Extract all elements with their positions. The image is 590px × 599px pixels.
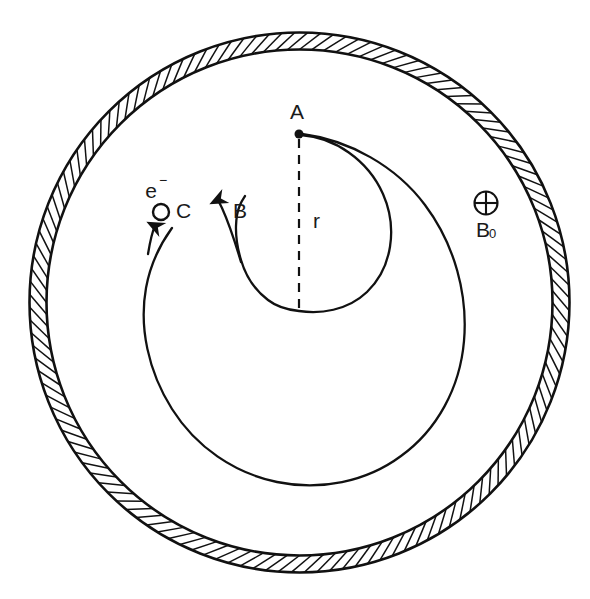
hatch-line (169, 533, 195, 539)
point-a-dot (295, 130, 304, 139)
electron-arrival-arrow (148, 226, 155, 254)
hatch-line (30, 307, 48, 326)
hatch-line (52, 195, 60, 220)
hatch-line (92, 129, 93, 156)
hatch-line (136, 515, 162, 517)
hatch-line (530, 408, 536, 434)
hatch-line (291, 555, 311, 572)
hatch-line (107, 492, 134, 494)
hatch-line (446, 95, 473, 96)
hatch-line (84, 139, 86, 165)
hatch-line (512, 439, 514, 465)
hatch-line (275, 33, 294, 51)
hatch-line (300, 33, 321, 49)
hatch-line (465, 111, 492, 113)
label-uniform-field-subscript: 0 (489, 226, 496, 241)
hatch-line (405, 66, 431, 72)
hatch-line (371, 50, 396, 60)
label-electron: e (145, 179, 157, 202)
hatch-line (77, 150, 80, 176)
hatch-line (70, 160, 75, 186)
hatch-line (43, 219, 54, 243)
label-b-field: B (233, 199, 247, 222)
hatch-line (30, 281, 46, 302)
hatch-line (426, 80, 452, 83)
label-electron-charge-sign: − (159, 172, 167, 188)
hatch-line (147, 522, 173, 525)
hatch-line (216, 548, 240, 559)
hatch-line (489, 468, 491, 495)
hatch-line (180, 537, 206, 544)
hatch-line (57, 183, 64, 209)
hatch-line (203, 545, 228, 555)
label-radius-r: r (313, 209, 320, 232)
hatch-line (552, 290, 569, 310)
hatch-line (506, 449, 507, 476)
radius-indicator: r (299, 139, 320, 311)
hatch-line (415, 73, 441, 78)
hatch-line (30, 294, 47, 314)
electron-trajectories (144, 134, 465, 485)
hatch-line (553, 303, 569, 324)
hatch-line (524, 418, 529, 444)
label-point-a: A (290, 100, 304, 123)
hatch-line (157, 527, 183, 532)
hatch-line (382, 55, 407, 63)
uniform-field-group: B 0 (475, 192, 498, 242)
hatch-line (192, 542, 217, 550)
hatch-line (304, 554, 323, 572)
outer-electron-spiral (144, 134, 465, 485)
hatch-line (63, 172, 69, 198)
hatch-line (47, 206, 57, 231)
hatch-line (436, 87, 462, 89)
hatch-line (545, 362, 556, 386)
hatch-line (278, 556, 299, 572)
point-a-group: A (290, 100, 304, 139)
collector-group: C e − (145, 172, 191, 222)
hatch-line (287, 33, 307, 50)
hatch-line (534, 397, 541, 423)
hatch-line (519, 429, 522, 455)
hatch-line (394, 60, 420, 67)
label-uniform-field: B (476, 218, 490, 241)
hatch-line (126, 509, 153, 510)
diagram-canvas: A r B C e − B 0 (0, 0, 590, 599)
hatch-line (539, 385, 547, 410)
hatch-line (542, 374, 552, 399)
collector-circle (153, 204, 169, 220)
hatch-line (359, 46, 383, 57)
hatch-line (551, 278, 569, 297)
physics-diagram-svg: A r B C e − B 0 (0, 0, 590, 599)
label-collector-c: C (176, 199, 191, 222)
hatch-line (108, 110, 110, 137)
